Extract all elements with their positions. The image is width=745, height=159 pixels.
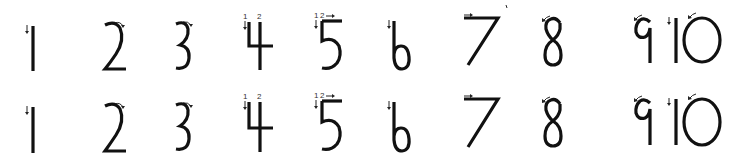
- down-arrow-icon: [243, 101, 247, 110]
- down-arrow-icon: [387, 20, 391, 29]
- digit-10: 10: [664, 80, 728, 159]
- stroke-order-2: 2: [320, 91, 325, 100]
- stroke-order-1: 1: [243, 92, 248, 101]
- digit-8: 8: [540, 0, 566, 80]
- digit-4: 4 1 2: [240, 80, 276, 159]
- digit-2: 2: [100, 0, 134, 80]
- right-arrow-icon: [326, 94, 335, 98]
- stroke-order-1: 1: [243, 12, 248, 21]
- digit-6: 6: [385, 80, 413, 159]
- digit-3: 3: [172, 0, 198, 80]
- digit-3: 3: [172, 80, 198, 159]
- digit-1: 1: [22, 0, 46, 80]
- down-arrow-icon: [25, 25, 29, 34]
- number-writing-worksheet: 1 2 3: [0, 0, 745, 159]
- stroke-order-2: 2: [320, 11, 325, 20]
- digit-8: 8: [540, 80, 566, 159]
- digit-2: 2: [100, 80, 134, 159]
- down-arrow-icon: [667, 98, 671, 106]
- stroke-order-1: 1: [314, 91, 319, 100]
- digit-5: 5 1 2: [311, 0, 345, 80]
- digit-row-1: 1 2 3: [0, 0, 745, 80]
- digit-10: 10: [664, 0, 728, 80]
- digit-row-2: 1 2 3: [0, 80, 745, 159]
- digit-4: 4 1 2: [240, 0, 276, 80]
- digit-7: 7: [462, 80, 510, 159]
- digit-6: 6: [385, 0, 413, 80]
- down-arrow-icon: [667, 17, 671, 25]
- digit-7: 7: [462, 0, 510, 80]
- stroke-order-2: 2: [257, 12, 262, 21]
- digit-5: 5 1 2: [311, 80, 345, 159]
- stroke-order-1: 1: [314, 11, 319, 20]
- down-arrow-icon: [387, 101, 391, 110]
- stroke-order-2: 2: [257, 92, 262, 101]
- digit-9: 9: [632, 0, 656, 80]
- down-arrow-icon: [243, 21, 247, 30]
- digit-9: 9: [632, 80, 656, 159]
- digit-1: 1: [22, 80, 46, 159]
- down-arrow-icon: [314, 100, 318, 109]
- down-arrow-icon: [25, 106, 29, 115]
- right-arrow-icon: [326, 14, 335, 18]
- down-arrow-icon: [314, 20, 318, 29]
